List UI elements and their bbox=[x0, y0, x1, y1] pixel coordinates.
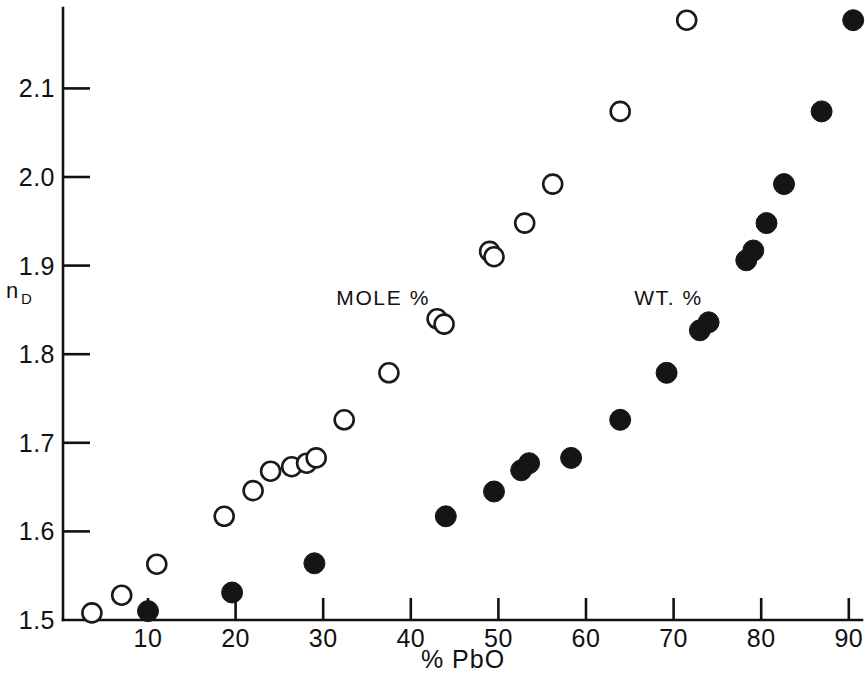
data-point bbox=[519, 453, 540, 474]
x-tick-group: 102030405060708090 bbox=[134, 598, 864, 652]
data-point bbox=[435, 315, 454, 334]
y-tick-label: 1.9 bbox=[19, 252, 55, 280]
scatter-plot-canvas: 1.51.61.71.81.92.02.1 102030405060708090… bbox=[0, 0, 865, 676]
data-point bbox=[611, 102, 630, 121]
data-point bbox=[811, 101, 832, 122]
x-tick-label: 90 bbox=[834, 624, 863, 652]
data-point bbox=[756, 213, 777, 234]
data-point bbox=[843, 10, 864, 31]
data-point bbox=[222, 582, 243, 603]
data-point bbox=[138, 601, 159, 622]
x-tick-label: 20 bbox=[221, 624, 250, 652]
x-tick-label: 80 bbox=[747, 624, 776, 652]
data-point bbox=[435, 506, 456, 527]
y-axis-title: n bbox=[6, 278, 18, 303]
data-point bbox=[485, 247, 504, 266]
data-point bbox=[215, 507, 234, 526]
axes-group bbox=[63, 8, 862, 620]
data-point bbox=[515, 214, 534, 233]
data-point bbox=[82, 603, 101, 622]
data-point bbox=[379, 363, 398, 382]
y-tick-label: 1.7 bbox=[19, 429, 55, 457]
y-tick-label: 1.8 bbox=[19, 340, 55, 368]
data-point bbox=[112, 586, 131, 605]
y-tick-group: 1.51.61.71.81.92.02.1 bbox=[19, 74, 90, 634]
data-point bbox=[698, 312, 719, 333]
y-axis-title-subscript: D bbox=[21, 290, 32, 307]
data-point bbox=[147, 555, 166, 574]
data-point bbox=[261, 462, 280, 481]
data-point bbox=[307, 448, 326, 467]
chart-figure: 1.51.61.71.81.92.02.1 102030405060708090… bbox=[0, 0, 865, 676]
y-tick-label: 2.1 bbox=[19, 74, 55, 102]
series-label: MOLE % bbox=[336, 286, 430, 309]
data-point bbox=[484, 481, 505, 502]
x-tick-label: 10 bbox=[134, 624, 163, 652]
data-point bbox=[244, 481, 263, 500]
data-point bbox=[543, 175, 562, 194]
x-tick-label: 30 bbox=[309, 624, 338, 652]
data-point bbox=[561, 447, 582, 468]
x-axis-title: % PbO bbox=[421, 645, 505, 673]
data-point bbox=[304, 553, 325, 574]
y-tick-label: 1.6 bbox=[19, 517, 55, 545]
series-annotations: MOLE %WT. % bbox=[336, 286, 703, 309]
series-wt-percent-points bbox=[138, 10, 864, 622]
data-point bbox=[774, 174, 795, 195]
data-point bbox=[656, 362, 677, 383]
data-point bbox=[610, 409, 631, 430]
series-mole-percent-points bbox=[82, 11, 696, 623]
x-tick-label: 60 bbox=[572, 624, 601, 652]
series-label: WT. % bbox=[634, 286, 703, 309]
data-point bbox=[677, 11, 696, 30]
y-tick-label: 2.0 bbox=[19, 163, 55, 191]
data-point bbox=[335, 410, 354, 429]
y-tick-label: 1.5 bbox=[19, 606, 55, 634]
data-point bbox=[743, 240, 764, 261]
x-tick-label: 70 bbox=[659, 624, 688, 652]
